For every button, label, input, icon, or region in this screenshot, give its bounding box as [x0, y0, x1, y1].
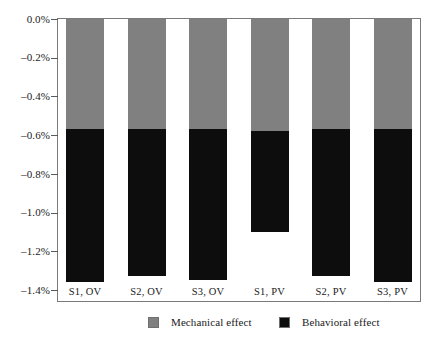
x-tick-label: S3, OV — [177, 286, 239, 297]
bar-segment-behavioral[interactable] — [66, 129, 104, 282]
bar-segment-behavioral[interactable] — [312, 129, 350, 276]
legend-swatch-icon — [279, 317, 290, 328]
legend-item-behavioral[interactable]: Behavioral effect — [279, 313, 380, 331]
bar-segment-behavioral[interactable] — [251, 131, 289, 232]
bar-segment-behavioral[interactable] — [374, 129, 412, 282]
bar-segment-mechanical[interactable] — [312, 19, 350, 129]
bar-segment-behavioral[interactable] — [189, 129, 227, 280]
legend-label: Behavioral effect — [302, 316, 380, 328]
legend-label: Mechanical effect — [171, 316, 252, 328]
bar-segment-mechanical[interactable] — [251, 19, 289, 131]
bar-segment-mechanical[interactable] — [374, 19, 412, 129]
bar-segment-mechanical[interactable] — [128, 19, 166, 129]
legend-swatch-icon — [148, 317, 159, 328]
bar-segment-behavioral[interactable] — [128, 129, 166, 276]
x-tick-label: S3, PV — [362, 286, 424, 297]
legend-item-mechanical[interactable]: Mechanical effect — [148, 313, 252, 331]
x-tick-label: S1, OV — [54, 286, 116, 297]
x-tick-label: S2, OV — [116, 286, 178, 297]
x-tick-label: S1, PV — [239, 286, 301, 297]
bar-segment-mechanical[interactable] — [189, 19, 227, 129]
bar-segment-mechanical[interactable] — [66, 19, 104, 129]
stacked-bar-chart: 0.0% –0.2% –0.4% –0.6% –0.8% –1.0% –1.2%… — [0, 0, 435, 340]
x-tick-label: S2, PV — [300, 286, 362, 297]
chart-legend: Mechanical effect Behavioral effect — [0, 313, 435, 333]
